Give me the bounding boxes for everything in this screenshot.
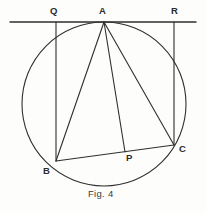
point-label-P: P xyxy=(126,153,133,163)
segment-group xyxy=(10,22,196,161)
point-label-Q: Q xyxy=(50,6,58,16)
geometry-drawing xyxy=(0,0,206,212)
point-label-R: R xyxy=(171,6,178,16)
figure-caption: Fig. 4 xyxy=(88,188,114,199)
segment-BC xyxy=(56,145,174,161)
point-label-C: C xyxy=(179,144,186,154)
point-label-B: B xyxy=(43,166,50,176)
segment-AC xyxy=(104,22,174,145)
figure-container: Q A R B P C Fig. 4 xyxy=(0,0,206,212)
segment-AB xyxy=(56,22,104,161)
circumcircle xyxy=(22,22,186,186)
point-label-A: A xyxy=(99,6,106,16)
